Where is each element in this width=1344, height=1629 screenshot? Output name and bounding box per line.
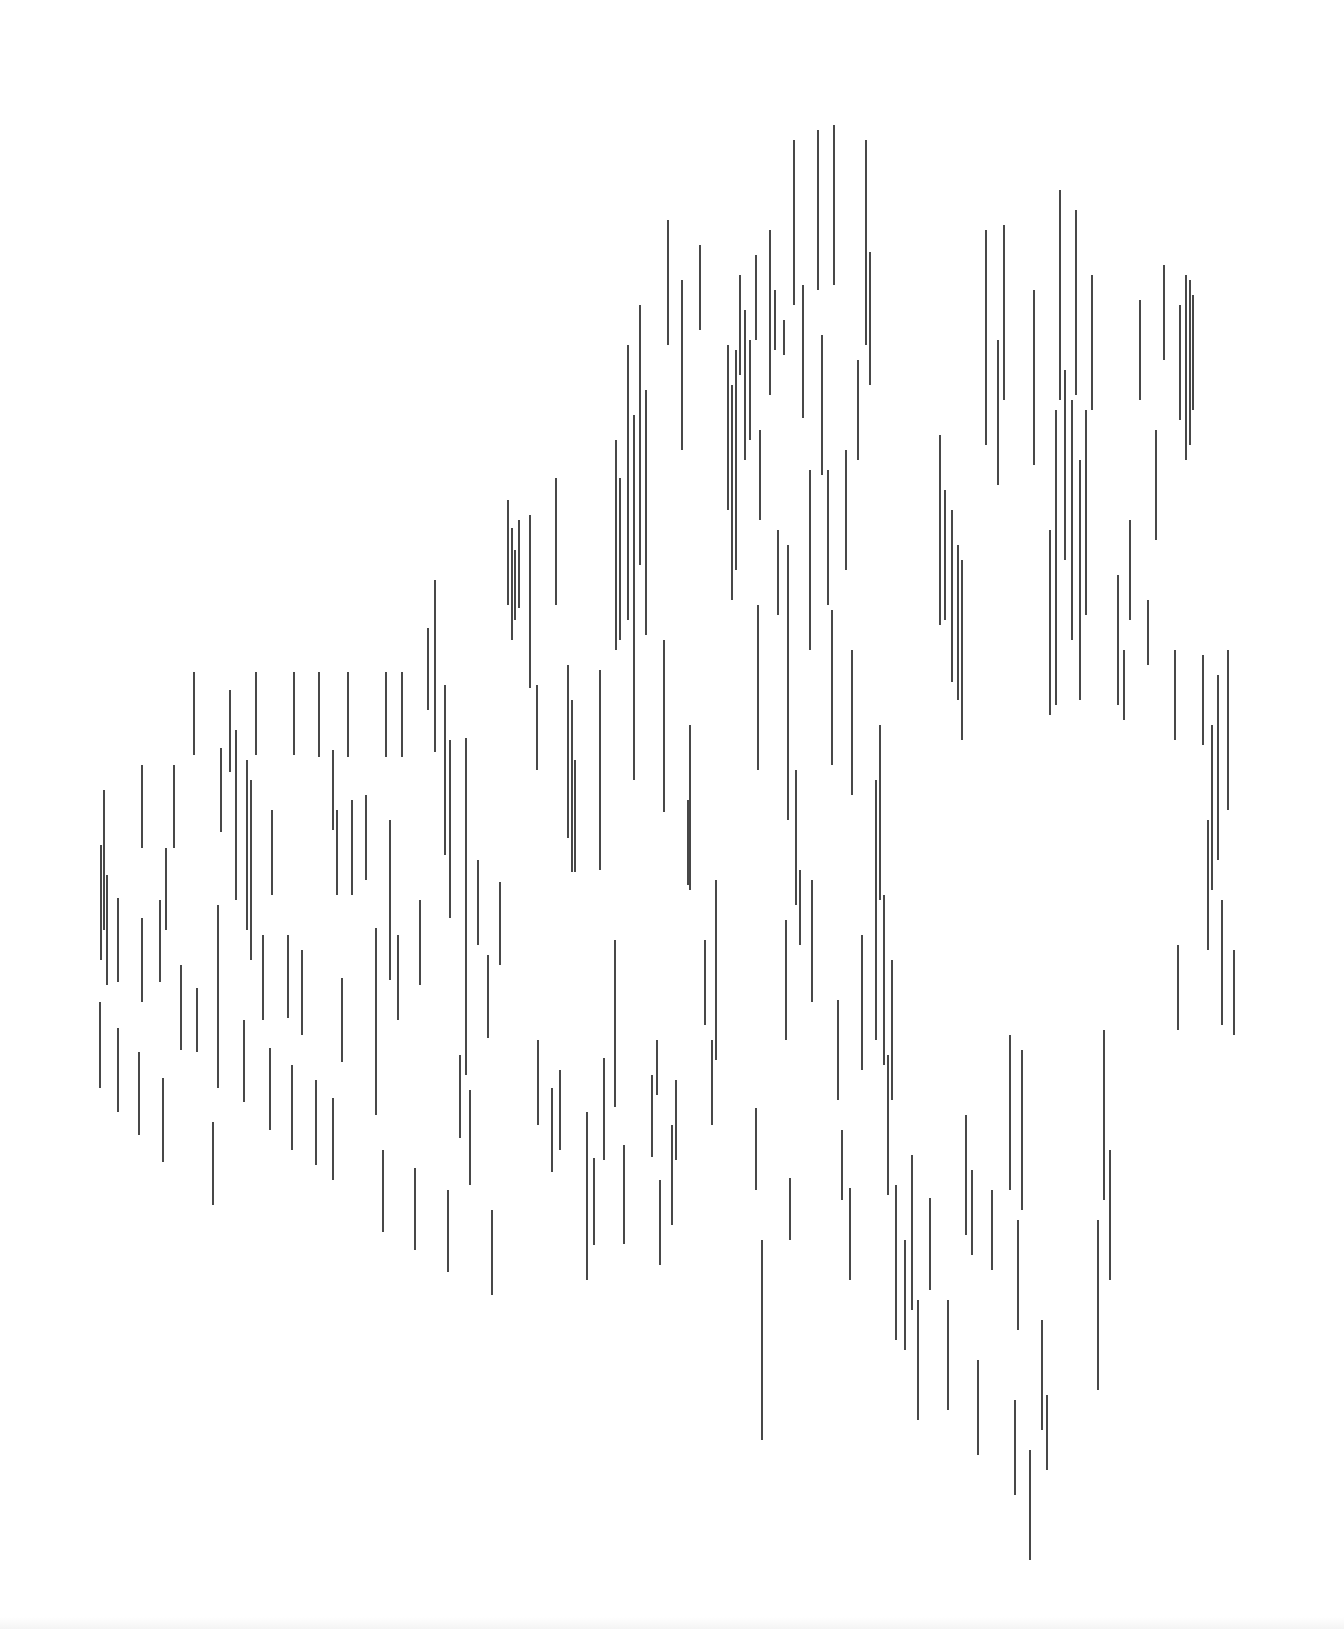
- line-artwork: [0, 0, 1344, 1629]
- scan-edge-bottom: [0, 1617, 1344, 1629]
- artwork-background: [0, 0, 1344, 1629]
